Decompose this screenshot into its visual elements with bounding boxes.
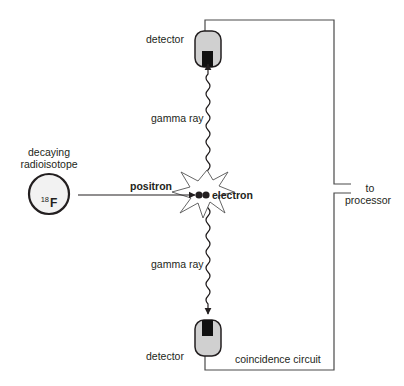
- isotope-symbol: 18F: [29, 183, 69, 223]
- detector-top-icon: [195, 31, 221, 67]
- coincidence-circuit-label: coincidence circuit: [235, 353, 321, 365]
- positron-particle-icon: [195, 191, 202, 198]
- isotope-element: F: [50, 196, 57, 210]
- positron-label: positron: [130, 180, 172, 192]
- isotope-caption-line2: radioisotope: [10, 158, 88, 170]
- detector-bottom-label: detector: [146, 350, 184, 362]
- detector-top-label: detector: [146, 33, 184, 45]
- isotope-caption-line1: decaying: [10, 146, 88, 158]
- gamma-ray-down-arrow: [206, 200, 210, 314]
- detector-bottom-icon: [195, 320, 221, 356]
- electron-particle-icon: [202, 191, 209, 198]
- electron-label: electron: [212, 189, 253, 201]
- to-processor-line1: to: [345, 182, 395, 194]
- isotope-mass-number: 18: [41, 195, 49, 204]
- gamma-ray-top-label: gamma ray: [151, 112, 204, 124]
- gamma-ray-up-arrow: [206, 64, 210, 178]
- gamma-ray-bottom-label: gamma ray: [151, 258, 204, 270]
- to-processor-line2: processor: [345, 194, 391, 206]
